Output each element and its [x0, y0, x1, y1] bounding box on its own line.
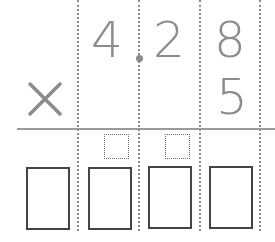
column-divider — [199, 0, 201, 231]
column-divider — [259, 0, 261, 231]
answer-box-3[interactable] — [148, 166, 192, 229]
column-divider — [138, 0, 140, 231]
column-divider — [77, 0, 79, 231]
decimal-point — [136, 55, 143, 62]
carry-box-ones[interactable] — [104, 134, 129, 159]
result-rule — [17, 128, 275, 130]
multiplicand-digit-ones: 4 — [87, 15, 127, 65]
answer-box-1[interactable] — [26, 167, 70, 230]
multiply-sign-icon — [26, 80, 64, 118]
multiplicand-digit-hundredths: 8 — [210, 15, 250, 65]
answer-box-2[interactable] — [88, 167, 132, 230]
carry-box-tenths[interactable] — [165, 134, 190, 159]
multiplicand-digit-tenths: 2 — [149, 15, 189, 65]
multiplier-digit: 5 — [212, 72, 252, 122]
answer-box-4[interactable] — [209, 166, 253, 229]
